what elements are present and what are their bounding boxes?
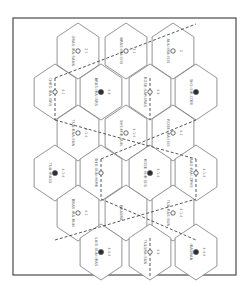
- hex-code: 4-1: [179, 130, 183, 136]
- open-circle-icon: [76, 49, 80, 53]
- hex-label: CHRS-IRA-ISRS: [48, 77, 52, 107]
- hex-label: TULSRA-SUN: [143, 239, 147, 265]
- hex-code: 4-1: [61, 89, 65, 95]
- open-circle-icon: [53, 90, 57, 94]
- open-circle-icon: [194, 171, 198, 175]
- hex-label: AAO-PAH-ZPHS: [189, 158, 193, 188]
- hex-label: B48-SUN-HIME: [94, 159, 98, 188]
- open-circle-icon: [171, 131, 175, 135]
- filled-dot-icon: [193, 89, 198, 94]
- hex-label: ROSE-ISIR-ISIS: [143, 159, 147, 188]
- hex-label: IRASRAN: [189, 243, 193, 260]
- hex-label: GRAS-IRA-SAUN: [71, 36, 75, 67]
- hex-code: 4-1-4: [132, 129, 136, 138]
- hex-code: 4-1: [84, 210, 88, 216]
- hex-label: SHS-SIR-IZER: [189, 79, 193, 106]
- hex-code: 4-1-4: [84, 129, 88, 138]
- hex-label: AUU-IRA-ISIS: [166, 38, 170, 64]
- hex-code: 4-4: [107, 89, 111, 95]
- hex-label: LAIS-SUN-IRAS: [94, 238, 98, 267]
- hex-label: BRAS-IRA-ISRS: [94, 78, 98, 107]
- hex-code: 2: [179, 50, 183, 52]
- filled-dot-icon: [98, 249, 103, 254]
- hex-label: TUA-RAS-SUN: [166, 199, 170, 227]
- hex-code: 4-1-4: [61, 169, 65, 178]
- open-circle-icon: [124, 49, 128, 53]
- open-circle-icon: [148, 90, 152, 94]
- hex-label: TUA-IRASS: [48, 162, 52, 184]
- hex-label: TUA-RAA-SUN: [71, 119, 75, 147]
- hex-label: BRAS-IRA-RUN: [71, 199, 75, 227]
- hex-code: 4-4-4: [202, 248, 206, 257]
- filled-dot-icon: [193, 249, 198, 254]
- open-circle-icon: [148, 250, 152, 254]
- filled-dot-icon: [52, 170, 57, 175]
- hex-label: ROSE-SAR-IRAS: [143, 77, 147, 108]
- hex-map-diagram: GRAS-IRA-SAUN2-1BRAS-IRA-ISIS3-1AUU-IRA-…: [0, 0, 247, 293]
- filled-dot-icon: [98, 89, 103, 94]
- open-circle-icon: [171, 49, 175, 53]
- hex-label: SHS-MIR-SUN: [119, 120, 123, 146]
- hex-code: 4-4-4: [107, 248, 111, 257]
- hex-code: 4-1-4: [202, 169, 206, 178]
- hex-code: 4-1-4: [179, 209, 183, 218]
- hex-label: BRAS-IRA-ISIS: [119, 37, 123, 65]
- hex-code: 4-4: [156, 89, 160, 95]
- filled-dot-icon: [147, 170, 152, 175]
- hex-code: 2-1: [84, 48, 88, 54]
- open-circle-icon: [124, 131, 128, 135]
- open-circle-icon: [171, 211, 175, 215]
- open-circle-icon: [76, 211, 80, 215]
- open-circle-icon: [76, 131, 80, 135]
- hex-code: 4-4: [156, 249, 160, 255]
- hex-grid: GRAS-IRA-SAUN2-1BRAS-IRA-ISIS3-1AUU-IRA-…: [34, 23, 217, 280]
- hex-label: ROSE-IRA-ISIS: [166, 119, 170, 147]
- hex-code: 4-1-4: [156, 169, 160, 178]
- open-circle-icon: [99, 171, 103, 175]
- hex-code: 3-1: [132, 48, 136, 54]
